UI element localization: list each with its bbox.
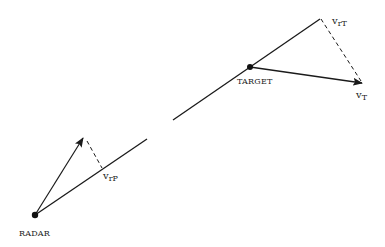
v-rT-projection-dashed — [321, 19, 361, 81]
line-of-sight-lower — [35, 139, 147, 215]
radar-dot — [32, 212, 38, 218]
radar-label: RADAR — [19, 229, 51, 238]
radar-velocity-arrow — [35, 138, 83, 215]
v-rP-projection-dashed — [87, 141, 102, 168]
target-dot — [247, 64, 253, 70]
v-rT-label: vrT — [331, 15, 347, 28]
v-T-label: vT — [355, 89, 368, 102]
target-label: TARGET — [237, 77, 273, 86]
radar-target-diagram: RADAR TARGET vrP vrT vT — [0, 0, 385, 247]
v-rP-label: vrP — [102, 170, 118, 183]
line-of-sight-upper — [173, 19, 320, 120]
